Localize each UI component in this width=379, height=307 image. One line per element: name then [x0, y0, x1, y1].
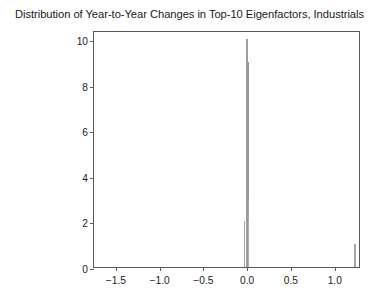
x-tick-label: −0.5 [193, 275, 213, 286]
y-tick-mark [90, 269, 94, 270]
plot-area [94, 32, 359, 267]
x-tick-label: 0.0 [240, 275, 254, 286]
histogram-bar [248, 221, 249, 267]
x-tick-mark [160, 267, 161, 271]
y-tick-label: 8 [82, 81, 88, 92]
y-tick-label: 2 [82, 218, 88, 229]
x-tick-mark [291, 267, 292, 271]
page-title: Distribution of Year-to-Year Changes in … [0, 8, 379, 20]
histogram-bar [354, 244, 355, 267]
x-tick-label: 1.0 [328, 275, 342, 286]
y-tick-mark [90, 132, 94, 133]
y-tick-mark [90, 87, 94, 88]
x-tick-mark [335, 267, 336, 271]
y-tick-label: 0 [82, 264, 88, 275]
x-tick-label: −1.5 [106, 275, 126, 286]
histogram-bar [244, 221, 245, 267]
chart-figure: Distribution of Year-to-Year Changes in … [0, 0, 379, 307]
y-tick-mark [90, 223, 94, 224]
x-tick-label: −1.0 [150, 275, 170, 286]
y-tick-label: 4 [82, 172, 88, 183]
x-tick-mark [203, 267, 204, 271]
plot-frame: 0246810 −1.5−1.0−0.50.00.51.0 [93, 31, 360, 268]
x-tick-mark [247, 267, 248, 271]
y-tick-label: 6 [82, 127, 88, 138]
y-tick-label: 10 [77, 36, 88, 47]
x-tick-mark [116, 267, 117, 271]
y-tick-mark [90, 178, 94, 179]
y-tick-mark [90, 41, 94, 42]
x-tick-label: 0.5 [284, 275, 298, 286]
